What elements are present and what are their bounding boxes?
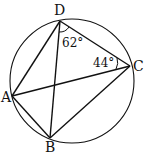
geometry-diagram: D C A B 62° 44° [0,0,144,156]
angle-label-c: 44° [93,56,114,70]
label-d: D [54,2,65,18]
angle-arc-c [116,58,118,69]
label-a: A [0,89,12,105]
segment-da [12,21,60,96]
angle-label-d: 62° [62,36,83,50]
segment-db [50,21,60,138]
label-b: B [45,139,55,155]
segment-ab [12,96,50,138]
label-c: C [133,58,144,74]
angle-arc-d [59,27,69,32]
